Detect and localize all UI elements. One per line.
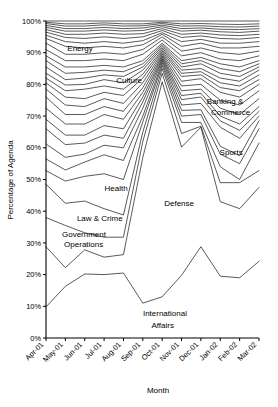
y-tick-label: 100% — [22, 17, 41, 26]
band-label: Culture — [116, 76, 142, 85]
x-tick-label: Feb-02 — [216, 340, 239, 363]
y-tick-label: 90% — [26, 48, 41, 57]
x-axis-title: Month — [147, 386, 169, 395]
y-tick-label: 30% — [26, 239, 41, 248]
band-label: Operations — [64, 240, 103, 249]
x-tick-label: Sep-01 — [119, 340, 142, 363]
x-tick-label: Aug-01 — [100, 340, 123, 363]
agenda-area-chart: 0%10%20%30%40%50%60%70%80%90%100%Apr-01M… — [0, 0, 278, 407]
x-tick-label: Nov-01 — [158, 340, 181, 363]
band-label: Defense — [164, 199, 194, 208]
y-tick-label: 40% — [26, 207, 41, 216]
series-line — [46, 22, 259, 24]
y-tick-label: 20% — [26, 270, 41, 279]
band-label: Sports — [220, 148, 243, 157]
axes — [43, 21, 259, 341]
y-axis-title: Percentage of Agenda — [6, 140, 15, 220]
band-label: Energy — [67, 44, 92, 53]
band-label: Banking & — [207, 97, 244, 106]
y-tick-label: 50% — [26, 175, 41, 184]
y-tick-label: 80% — [26, 80, 41, 89]
x-tick-label: Jun-01 — [62, 340, 84, 362]
series-line — [46, 51, 259, 99]
x-tick-label: Jan-02 — [197, 340, 219, 362]
x-tick-label: Dec-01 — [177, 340, 200, 363]
band-label: Law & Crime — [77, 214, 123, 223]
y-tick-label: 10% — [26, 302, 41, 311]
x-tick-label: Mar-02 — [235, 340, 258, 363]
y-tick-label: 60% — [26, 143, 41, 152]
band-label: Affairs — [151, 321, 174, 330]
band-label: International — [143, 309, 187, 318]
band-label: Health — [105, 184, 128, 193]
series-line — [46, 65, 259, 181]
x-tick-label: May-01 — [41, 340, 65, 364]
series-line — [46, 69, 259, 215]
y-tick-label: 70% — [26, 112, 41, 121]
band-label: Government — [62, 230, 107, 239]
band-label: Commerce — [211, 108, 251, 117]
plot-area — [46, 21, 259, 307]
chart-container: 0%10%20%30%40%50%60%70%80%90%100%Apr-01M… — [0, 0, 278, 407]
